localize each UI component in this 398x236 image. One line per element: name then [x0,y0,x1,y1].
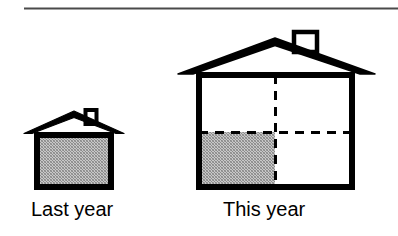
large-house-shaded-region [199,132,275,187]
large-house-roof [178,38,375,74]
figure-container: Last year This year [0,0,398,236]
large-house-group [178,32,375,187]
caption-this-year: This year [223,199,305,219]
caption-last-year: Last year [31,199,113,219]
small-house-roof [24,111,124,134]
small-house-shaded-region [37,135,111,187]
small-house-group [24,110,124,187]
